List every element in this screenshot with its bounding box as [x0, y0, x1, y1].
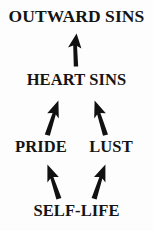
node-pride: PRIDE — [8, 139, 74, 156]
arrow-pride-to-heart-sins — [45, 101, 59, 136]
arrow-heart-sins-to-outward-sins — [68, 34, 81, 67]
node-heart-sins: HEART SINS — [0, 72, 153, 89]
node-outward-sins: OUTWARD SINS — [0, 8, 153, 26]
arrow-self-life-to-pride — [47, 165, 61, 200]
arrow-layer — [0, 0, 153, 231]
sin-progression-diagram: OUTWARD SINS HEART SINS PRIDE LUST SELF-… — [0, 0, 153, 231]
node-self-life: SELF-LIFE — [0, 203, 153, 220]
arrow-self-life-to-lust — [92, 165, 106, 200]
arrow-lust-to-heart-sins — [94, 101, 108, 136]
node-lust: LUST — [78, 139, 144, 156]
